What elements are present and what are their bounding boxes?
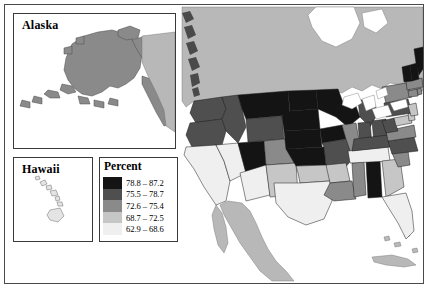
legend-row: 68.7 – 72.5 — [103, 212, 164, 224]
legend-label: 68.7 – 72.5 — [126, 213, 164, 223]
legend-swatch — [103, 212, 122, 224]
legend-swatch — [103, 189, 122, 201]
state-wyoming — [246, 116, 284, 142]
map-figure: Alaska Hawaii Percent 78.8 – 87.2 — [0, 0, 430, 290]
legend-label: 78.8 – 87.2 — [126, 178, 164, 188]
legend-label: 72.6 – 75.4 — [126, 201, 164, 211]
state-oklahoma — [296, 165, 330, 183]
legend-row: 78.8 – 87.2 — [103, 177, 164, 189]
legend-row: 62.9 – 68.6 — [103, 223, 164, 235]
hawaii-inset: Hawaii — [13, 157, 93, 242]
state-mississippi — [352, 162, 366, 197]
legend-rows: 78.8 – 87.2 75.5 – 78.7 72.6 – 75.4 68.7… — [103, 177, 164, 235]
state-oregon — [186, 119, 226, 147]
state-alabama — [366, 160, 382, 198]
legend-title: Percent — [104, 160, 141, 172]
legend-swatch — [103, 223, 122, 235]
legend-swatch — [103, 177, 122, 189]
state-arkansas — [326, 163, 350, 183]
hawaii-inset-label: Hawaii — [22, 162, 60, 177]
state-north-dakota — [288, 90, 318, 111]
map-legend: Percent 78.8 – 87.2 75.5 – 78.7 72.6 – 7… — [99, 157, 178, 242]
alaska-inset-label: Alaska — [22, 18, 59, 33]
state-nebraska — [284, 129, 322, 149]
alaska-map — [14, 14, 175, 148]
state-south-dakota — [282, 109, 320, 131]
state-montana — [238, 91, 290, 119]
north-america-map — [176, 5, 423, 283]
state-rhode-island — [417, 88, 422, 95]
legend-label: 62.9 – 68.6 — [126, 224, 164, 234]
legend-swatch — [103, 200, 122, 212]
legend-label: 75.5 – 78.7 — [126, 189, 164, 199]
legend-row: 75.5 – 78.7 — [103, 189, 164, 201]
legend-row: 72.6 – 75.4 — [103, 200, 164, 212]
main-map-panel — [176, 5, 423, 283]
alaska-inset: Alaska — [13, 13, 176, 149]
